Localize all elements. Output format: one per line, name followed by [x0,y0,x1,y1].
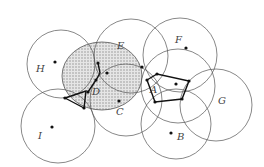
vertex-dot [105,71,108,74]
vertex-dot [145,78,148,81]
vertex-dot [63,96,66,99]
label-h: H [35,63,45,74]
center-point-f [184,46,187,49]
vertex-dot [86,90,89,93]
center-point-c [117,99,120,102]
vertex-dot [94,78,97,81]
disk-cover-diagram: HEFDACGIB [0,0,264,167]
center-point-a-center [174,82,177,85]
label-c: C [116,106,124,117]
center-point-i [50,125,53,128]
label-f: F [174,34,183,45]
label-e: E [116,40,125,51]
label-d: D [91,86,100,97]
vertex-dot [82,106,85,109]
label-b: B [176,131,184,142]
center-point-h [53,60,56,63]
diagram-container: HEFDACGIB [0,0,264,167]
vertex-dot [180,97,183,100]
vertex-dot [153,100,156,103]
label-a: A [149,84,157,95]
label-i: I [37,130,43,141]
center-point-e-dot [140,65,143,68]
label-g: G [218,95,226,106]
vertex-dot [96,61,99,64]
shaded-region-d [62,42,142,110]
vertex-dot [187,79,190,82]
circle-g [180,69,252,141]
vertex-dot [155,72,158,75]
center-point-b [169,131,172,134]
circle-f [143,18,217,92]
